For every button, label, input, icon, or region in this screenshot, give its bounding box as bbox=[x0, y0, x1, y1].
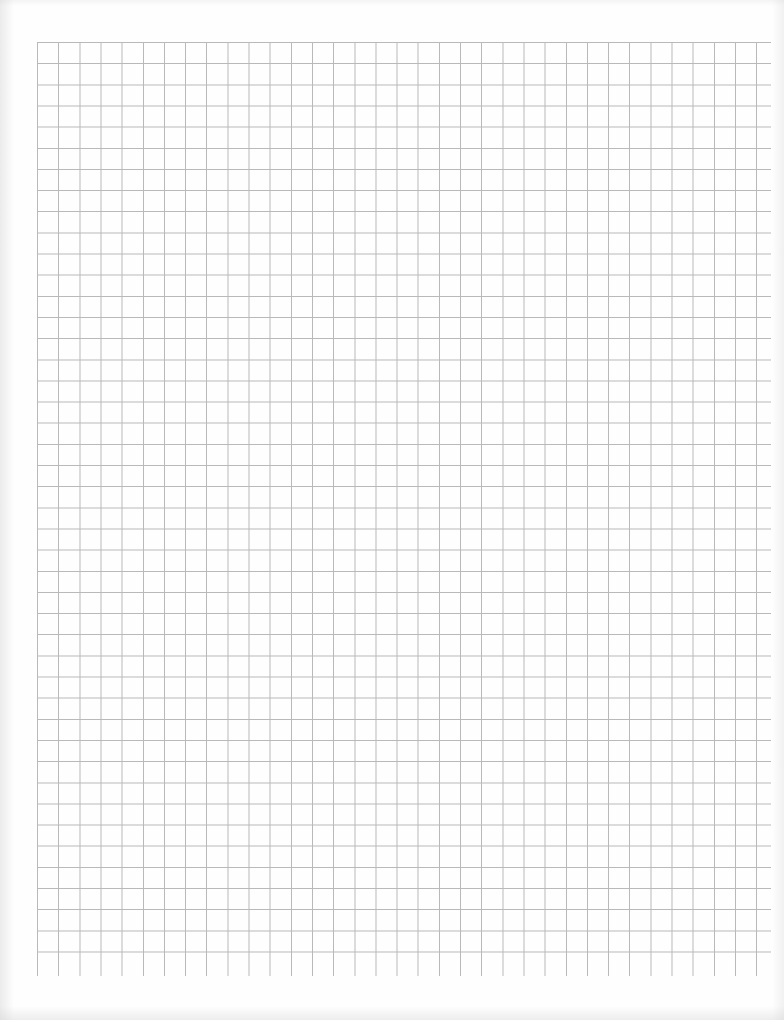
graph-paper-grid bbox=[0, 0, 784, 1020]
graph-paper-page bbox=[0, 0, 784, 1020]
